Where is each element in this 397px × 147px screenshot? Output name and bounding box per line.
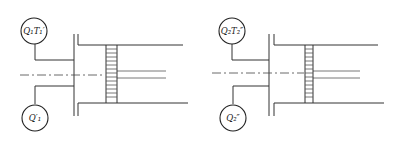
left-cylinder-diagram: Q₁T₁′ Q′₁ [20,18,188,131]
top-circle-connector [35,44,74,60]
right-cylinder-diagram: Q₂T₂″ Q₂″ [212,18,384,131]
top-state-label: Q₂T₂″ [221,26,244,36]
bottom-state-label: Q′₁ [29,113,41,123]
diagram-canvas: Q₁T₁′ Q′₁ [0,0,397,147]
top-state-label: Q₁T₁′ [23,26,44,36]
bottom-circle-connector [35,86,74,104]
bottom-circle-connector [233,86,269,104]
bottom-state-label: Q₂″ [226,113,240,123]
top-circle-connector [232,44,269,60]
piston [106,45,117,103]
piston [305,45,313,103]
